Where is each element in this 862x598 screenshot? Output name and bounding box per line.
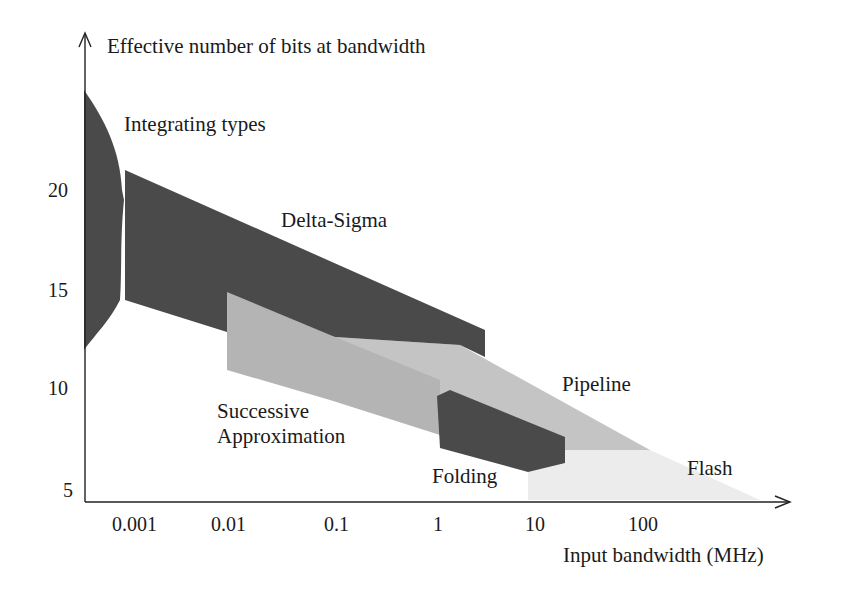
x-tick-10: 10 bbox=[525, 514, 545, 534]
region-integrating-types bbox=[84, 90, 124, 350]
label-integrating-types: Integrating types bbox=[124, 114, 266, 135]
y-tick-20: 20 bbox=[48, 180, 68, 200]
x-tick-0.001: 0.001 bbox=[112, 514, 157, 534]
x-tick-100: 100 bbox=[628, 514, 658, 534]
label-pipeline: Pipeline bbox=[562, 374, 631, 395]
y-tick-15: 15 bbox=[48, 280, 68, 300]
label-delta-sigma: Delta-Sigma bbox=[281, 210, 387, 231]
label-successive-line2: Approximation bbox=[217, 426, 345, 447]
label-flash: Flash bbox=[687, 458, 733, 479]
label-folding: Folding bbox=[432, 466, 497, 487]
y-tick-10: 10 bbox=[48, 378, 68, 398]
label-successive-line1: Successive bbox=[217, 401, 309, 422]
x-tick-0.1: 0.1 bbox=[324, 514, 349, 534]
x-tick-0.01: 0.01 bbox=[211, 514, 246, 534]
x-axis-label: Input bandwidth (MHz) bbox=[563, 545, 764, 566]
adc-architecture-diagram bbox=[0, 0, 862, 598]
x-tick-1: 1 bbox=[433, 514, 443, 534]
y-tick-5: 5 bbox=[63, 480, 73, 500]
y-axis-label: Effective number of bits at bandwidth bbox=[107, 36, 426, 57]
